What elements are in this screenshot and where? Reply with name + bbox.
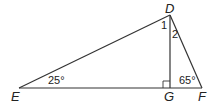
vertex-label-E: E (11, 89, 20, 104)
vertex-label-G: G (164, 89, 174, 104)
angle-label-E: 25° (48, 74, 65, 86)
angle-label-2: 2 (172, 28, 178, 40)
vertex-label-F: F (198, 89, 207, 104)
segment-DE (19, 15, 170, 88)
angle-label-1: 1 (161, 19, 167, 31)
angle-label-F: 65° (179, 74, 196, 86)
right-angle-marker (163, 81, 170, 88)
triangle-diagram: D E G F 1 2 25° 65° (0, 0, 217, 106)
vertex-label-D: D (165, 1, 174, 16)
